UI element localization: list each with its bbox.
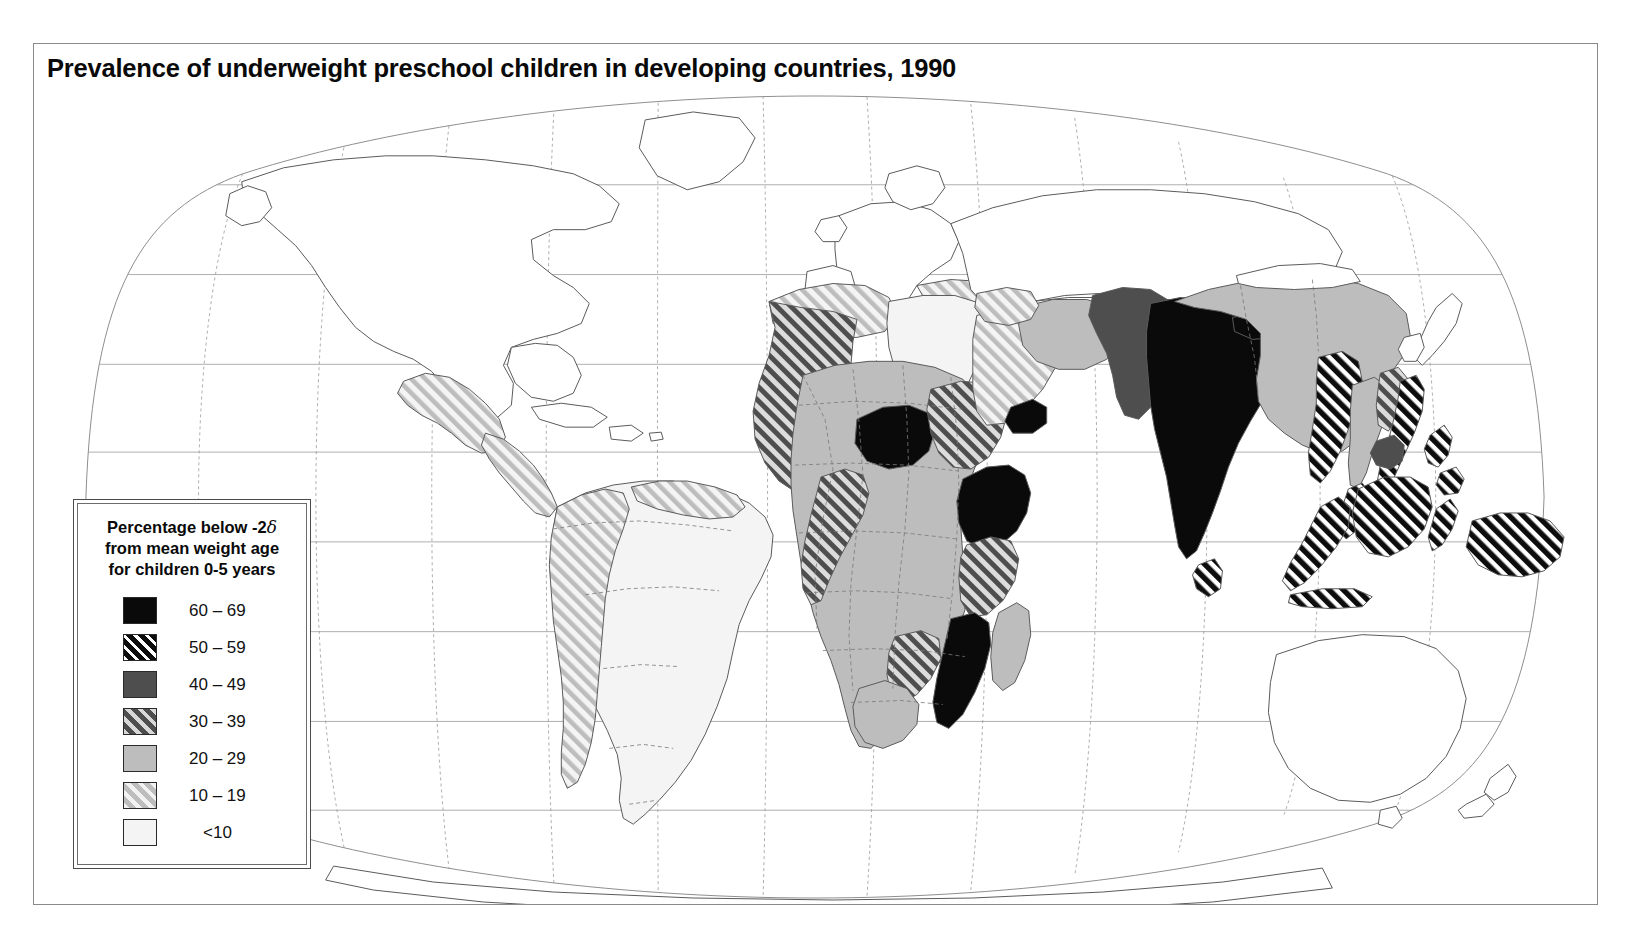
legend-row: 50 – 59 — [86, 629, 298, 666]
legend-swatch-40-49 — [123, 671, 157, 698]
legend-inner-frame: Percentage below -2δ from mean weight ag… — [77, 503, 307, 865]
legend-swatch-30-39 — [123, 708, 157, 735]
legend-label-30-39: 30 – 39 — [189, 712, 246, 732]
legend-row: 40 – 49 — [86, 666, 298, 703]
legend-swatch-under-10 — [123, 819, 157, 846]
figure-panel: Prevalence of underweight preschool chil… — [33, 43, 1598, 905]
region-new-zealand-south — [1458, 794, 1494, 818]
page-title: Prevalence of underweight preschool chil… — [47, 54, 956, 83]
legend-title: Percentage below -2δ from mean weight ag… — [86, 517, 298, 580]
legend-swatch-60-69 — [123, 597, 157, 624]
legend-label-under-10: <10 — [203, 823, 232, 843]
legend-title-line-2: from mean weight age — [86, 538, 298, 559]
legend-title-line-1: Percentage below -2δ — [86, 517, 298, 538]
region-new-zealand — [1484, 764, 1516, 800]
legend-swatch-20-29 — [123, 745, 157, 772]
legend-title-text-1: Percentage below -2 — [107, 518, 267, 536]
legend-row: 10 – 19 — [86, 777, 298, 814]
legend-row: 30 – 39 — [86, 703, 298, 740]
legend-title-line-3: for children 0-5 years — [86, 559, 298, 580]
delta-symbol: δ — [267, 517, 277, 537]
legend-label-10-19: 10 – 19 — [189, 786, 246, 806]
legend-label-50-59: 50 – 59 — [189, 638, 246, 658]
legend-swatch-50-59 — [123, 634, 157, 661]
region-levant-iraq — [975, 288, 1039, 326]
legend-label-20-29: 20 – 29 — [189, 749, 246, 769]
legend-row: <10 — [86, 814, 298, 851]
legend-label-60-69: 60 – 69 — [189, 601, 246, 621]
region-puerto-rico — [649, 432, 663, 441]
legend-row: 60 – 69 — [86, 592, 298, 629]
map-legend: Percentage below -2δ from mean weight ag… — [73, 499, 311, 869]
legend-label-40-49: 40 – 49 — [189, 675, 246, 695]
legend-row: 20 – 29 — [86, 740, 298, 777]
legend-swatch-10-19 — [123, 782, 157, 809]
